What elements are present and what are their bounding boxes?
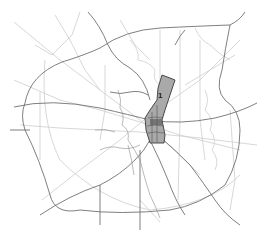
city-map: 1 (0, 0, 257, 233)
district-label: 1 (158, 91, 162, 100)
road-network (0, 0, 257, 233)
highlighted-district (145, 75, 175, 143)
